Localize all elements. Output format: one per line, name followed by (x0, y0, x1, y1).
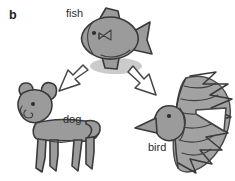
figure-canvas: b fish (0, 0, 235, 181)
dog-sketch-icon (18, 83, 100, 172)
figure-panel: b fish (0, 0, 235, 181)
node-label-dog: dog (63, 113, 81, 125)
arrow-down-right-icon (128, 66, 156, 95)
fish-sketch-icon (82, 8, 152, 74)
arrow-down-left-icon (59, 65, 88, 91)
node-label-bird: bird (148, 141, 166, 153)
panel-letter: b (9, 8, 17, 22)
node-label-fish: fish (66, 7, 83, 19)
